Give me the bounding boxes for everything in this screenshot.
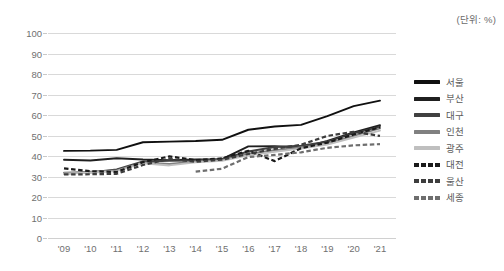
legend-item-울산[interactable]: 울산 (414, 173, 500, 190)
y-axis-tick-label: 60 (0, 110, 42, 121)
x-axis-tick-label: '20 (347, 243, 359, 254)
plot-area (48, 33, 396, 238)
legend-item-대구[interactable]: 대구 (414, 107, 500, 124)
y-axis-tick-mark (43, 54, 47, 55)
series-svg (48, 33, 396, 238)
legend-swatch-solid-icon (414, 113, 440, 117)
y-axis-tick-label: 10 (0, 212, 42, 223)
legend-swatch-solid-icon (414, 146, 440, 150)
legend-label: 부산 (446, 94, 464, 104)
legend-label: 광주 (446, 144, 464, 154)
y-axis-tick-mark (43, 95, 47, 96)
y-axis-tick-mark (43, 115, 47, 116)
y-axis-tick-label: 90 (0, 48, 42, 59)
series-line-광주 (64, 131, 380, 174)
x-axis-tick-label: '10 (84, 243, 96, 254)
y-axis-tick-label: 30 (0, 171, 42, 182)
legend-swatch-solid-icon (414, 130, 440, 134)
y-axis-tick-mark (43, 136, 47, 137)
x-axis-tick-label: '18 (295, 243, 307, 254)
legend-swatch-dashed-icon (414, 179, 440, 183)
x-axis-tick-label: '11 (111, 243, 123, 254)
unit-annotation: (단위: %) (457, 12, 496, 26)
x-axis-tick-label: '17 (268, 243, 280, 254)
legend-label: 대구 (446, 111, 464, 121)
legend-swatch-solid-icon (414, 97, 440, 101)
legend-label: 대전 (446, 160, 464, 170)
y-axis-tick-mark (43, 218, 47, 219)
x-axis-tick-label: '12 (137, 243, 149, 254)
legend-label: 울산 (446, 177, 464, 187)
y-axis-tick-label: 50 (0, 130, 42, 141)
legend-label: 인천 (446, 127, 464, 137)
legend-label: 서울 (446, 78, 464, 88)
x-axis-tick-label: '09 (58, 243, 70, 254)
legend-swatch-dashed-icon (414, 196, 440, 200)
chart-legend: 서울부산대구인천광주대전울산세종 (414, 74, 500, 206)
y-axis-tick-mark (43, 238, 47, 239)
legend-item-대전[interactable]: 대전 (414, 157, 500, 174)
x-axis-tick-label: '21 (374, 243, 386, 254)
legend-label: 세종 (446, 193, 464, 203)
x-axis-labels: '09'10'11'12'13'14'15'16'17'18'19'20'21 (48, 243, 396, 261)
x-axis-tick-label: '15 (216, 243, 228, 254)
legend-item-세종[interactable]: 세종 (414, 190, 500, 207)
y-axis-tick-label: 0 (0, 233, 42, 244)
legend-item-인천[interactable]: 인천 (414, 124, 500, 141)
legend-swatch-solid-icon (414, 80, 440, 84)
chart-container: (단위: %) 1009080706050403020100 '09'10'11… (0, 0, 504, 271)
y-axis-tick-mark (43, 33, 47, 34)
y-axis-tick-label: 100 (0, 28, 42, 39)
y-axis-tick-label: 70 (0, 89, 42, 100)
x-axis-tick-label: '16 (242, 243, 254, 254)
y-axis-tick-mark (43, 177, 47, 178)
legend-item-서울[interactable]: 서울 (414, 74, 500, 91)
legend-item-부산[interactable]: 부산 (414, 91, 500, 108)
x-axis-tick-label: '13 (163, 243, 175, 254)
y-axis-labels: 1009080706050403020100 (0, 33, 42, 238)
y-axis-tick-mark (43, 74, 47, 75)
series-lines (48, 33, 396, 238)
y-axis-tick-label: 20 (0, 192, 42, 203)
gridline (48, 238, 396, 239)
x-axis-tick-label: '19 (321, 243, 333, 254)
x-axis-tick-label: '14 (189, 243, 201, 254)
y-axis-tick-mark (43, 197, 47, 198)
y-axis-tick-mark (43, 156, 47, 157)
legend-swatch-dashed-icon (414, 163, 440, 167)
y-axis-tick-label: 40 (0, 151, 42, 162)
y-axis-tick-label: 80 (0, 69, 42, 80)
legend-item-광주[interactable]: 광주 (414, 140, 500, 157)
